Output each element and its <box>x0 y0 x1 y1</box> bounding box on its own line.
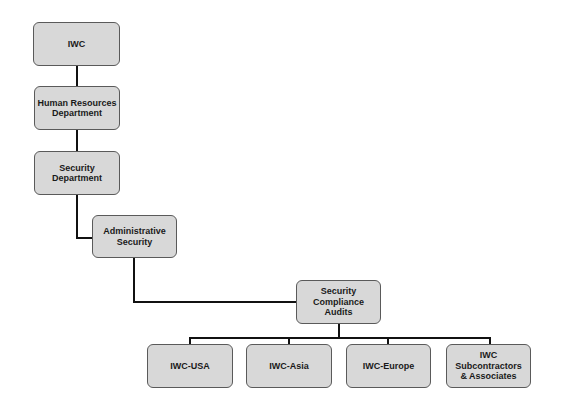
node-security-department: Security Department <box>34 151 120 195</box>
node-label: Security Compliance Audits <box>313 286 364 318</box>
node-label: IWC-Asia <box>269 361 309 372</box>
connector-iwc-hr <box>76 65 78 86</box>
node-iwc-europe: IWC-Europe <box>346 344 431 388</box>
node-label: IWC-USA <box>170 361 210 372</box>
node-label: IWC-Europe <box>363 361 415 372</box>
connector-sca-stem <box>338 323 340 338</box>
connector-admin-sca-h <box>133 301 296 303</box>
node-administrative-security: Administrative Security <box>92 215 177 258</box>
node-iwc-subcontractors: IWC Subcontractors & Associates <box>446 344 531 388</box>
node-iwc-usa: IWC-USA <box>147 344 233 388</box>
connector-bus-asia <box>288 337 290 344</box>
connector-bus-subs <box>489 337 491 344</box>
connector-bus <box>189 337 491 339</box>
connector-bus-europe <box>387 337 389 344</box>
connector-security-admin-v <box>76 194 78 239</box>
node-label: Human Resources Department <box>37 98 116 119</box>
connector-hr-security <box>76 130 78 151</box>
node-label: Administrative Security <box>103 226 166 247</box>
node-label: IWC <box>68 39 86 50</box>
connector-security-admin-h <box>76 237 92 239</box>
node-iwc-asia: IWC-Asia <box>246 344 332 388</box>
node-human-resources: Human Resources Department <box>34 86 120 130</box>
node-label: Security Department <box>52 163 102 184</box>
org-chart-canvas: IWC Human Resources Department Security … <box>0 0 564 414</box>
connector-admin-sca-v <box>133 257 135 303</box>
node-label: IWC Subcontractors & Associates <box>455 350 522 382</box>
node-security-compliance-audits: Security Compliance Audits <box>296 280 381 324</box>
node-iwc: IWC <box>33 22 120 66</box>
connector-bus-usa <box>189 337 191 344</box>
